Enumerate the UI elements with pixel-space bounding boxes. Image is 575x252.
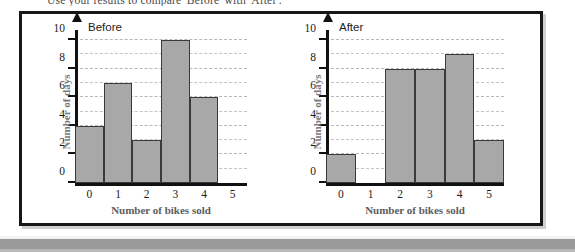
chart-before: Before0246810012345Number of bikes soldN… (22, 14, 281, 223)
y-axis-tick-label: 10 (54, 22, 66, 34)
x-axis-tick-label: 2 (132, 188, 161, 200)
x-axis-tick-label: 0 (326, 188, 356, 200)
y-axis-tick-label: 0 (310, 165, 316, 177)
y-axis-tick-label: 8 (310, 51, 316, 63)
figure-panel: Before0246810012345Number of bikes soldN… (19, 11, 543, 226)
plot-area: 0246810012345Number of bikes soldNumber … (326, 40, 504, 183)
x-axis-tick-label: 2 (385, 188, 415, 200)
bar (132, 140, 161, 183)
bar-slot (75, 40, 104, 183)
bar-slot (385, 40, 415, 183)
y-axis-tick-label: 0 (59, 165, 65, 177)
bar (415, 69, 445, 183)
x-axis-tick-label: 4 (190, 188, 219, 200)
bar (445, 54, 475, 183)
x-axis-tick-label: 5 (474, 188, 504, 200)
x-axis-tick-label: 3 (415, 188, 445, 200)
x-axis-tick-label: 5 (218, 188, 247, 200)
bar-slot (445, 40, 475, 183)
bar (190, 97, 219, 183)
x-axis-line (75, 183, 247, 186)
bar (474, 140, 504, 183)
bar (326, 154, 356, 183)
x-axis-tick-labels: 012345 (326, 188, 504, 200)
y-axis-title: Number of days (311, 74, 323, 149)
x-axis-title: Number of bikes sold (326, 204, 504, 216)
plot-area: 0246810012345Number of bikes soldNumber … (75, 40, 247, 183)
chart-title: After (339, 21, 363, 33)
page-bottom-band (0, 236, 575, 252)
charts-row: Before0246810012345Number of bikes soldN… (22, 14, 540, 223)
bar-slot (132, 40, 161, 183)
bar-slot (415, 40, 445, 183)
bar-slot (474, 40, 504, 183)
x-axis-tick-label: 4 (445, 188, 475, 200)
y-axis-tick-label: 8 (59, 51, 65, 63)
bar (75, 126, 104, 183)
bar (161, 40, 190, 183)
page-heading: Use your results to compare 'Before' wit… (47, 0, 567, 6)
bar-slot (161, 40, 190, 183)
x-axis-tick-label: 1 (104, 188, 133, 200)
x-axis-line (326, 183, 504, 186)
y-axis-arrow-icon (72, 12, 82, 22)
bar (385, 69, 415, 183)
bar-slot (218, 40, 247, 183)
bar-series (75, 40, 247, 183)
y-axis-tick-label: 10 (305, 22, 317, 34)
chart-after: After0246810012345Number of bikes soldNu… (281, 14, 540, 223)
bar-slot (104, 40, 133, 183)
bar (104, 83, 133, 183)
x-axis-tick-label: 0 (75, 188, 104, 200)
x-axis-title: Number of bikes sold (75, 204, 247, 216)
x-axis-tick-labels: 012345 (75, 188, 247, 200)
bar-slot (190, 40, 219, 183)
bar-series (326, 40, 504, 183)
y-axis-arrow-icon (323, 12, 333, 22)
x-axis-tick-label: 1 (356, 188, 386, 200)
chart-title: Before (88, 21, 122, 33)
bar-slot (326, 40, 356, 183)
x-axis-tick-label: 3 (161, 188, 190, 200)
bar-slot (356, 40, 386, 183)
y-axis-title: Number of days (60, 74, 72, 149)
